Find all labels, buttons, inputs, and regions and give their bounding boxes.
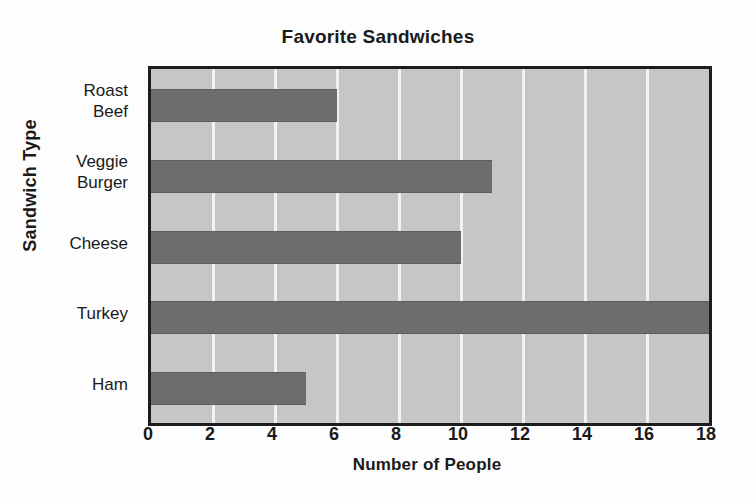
bar xyxy=(151,89,337,122)
x-tick-label: 16 xyxy=(622,424,666,445)
chart-title: Favorite Sandwiches xyxy=(0,26,756,48)
bar-chart-figure: Favorite Sandwiches Sandwich Type RoastB… xyxy=(0,0,756,499)
y-tick-label: Ham xyxy=(0,374,128,395)
y-tick-label-line: Veggie xyxy=(0,151,128,172)
x-tick-label: 12 xyxy=(498,424,542,445)
bar-series xyxy=(151,69,709,423)
x-tick-label: 0 xyxy=(126,424,170,445)
y-tick-label: VeggieBurger xyxy=(0,151,128,193)
x-tick-label: 4 xyxy=(250,424,294,445)
bar xyxy=(151,372,306,405)
x-tick-label: 10 xyxy=(436,424,480,445)
x-axis-tick-labels: 024681012141618 xyxy=(148,424,706,452)
plot-area xyxy=(148,66,712,426)
y-tick-label: Turkey xyxy=(0,303,128,324)
y-tick-label-line: Beef xyxy=(0,101,128,122)
bar xyxy=(151,160,492,193)
x-tick-label: 14 xyxy=(560,424,604,445)
y-tick-label: RoastBeef xyxy=(0,80,128,122)
x-tick-label: 8 xyxy=(374,424,418,445)
y-tick-label-line: Burger xyxy=(0,172,128,193)
y-tick-label: Cheese xyxy=(0,233,128,254)
x-tick-label: 6 xyxy=(312,424,356,445)
y-axis-tick-labels: RoastBeefVeggieBurgerCheeseTurkeyHam xyxy=(0,66,140,420)
bar xyxy=(151,301,709,334)
y-tick-label-line: Roast xyxy=(0,80,128,101)
x-tick-label: 2 xyxy=(188,424,232,445)
y-tick-label-line: Ham xyxy=(0,374,128,395)
x-axis-title: Number of People xyxy=(148,455,706,475)
x-tick-label: 18 xyxy=(684,424,728,445)
y-tick-label-line: Cheese xyxy=(0,233,128,254)
bar xyxy=(151,231,461,264)
y-tick-label-line: Turkey xyxy=(0,303,128,324)
